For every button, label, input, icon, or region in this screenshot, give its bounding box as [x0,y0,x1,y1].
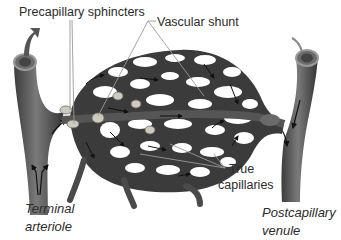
label-terminal-arteriole-line2: arteriole [25,218,72,235]
label-terminal-arteriole-line1: Terminal [25,200,74,217]
sphincter-2 [67,120,79,128]
sphincter-5 [131,100,141,108]
terminal-arteriole [14,28,66,215]
sphincter-3 [92,113,104,123]
label-true-capillaries-line1: True [229,162,254,176]
label-true-capillaries-line2: capillaries [218,178,274,192]
label-postcapillary-venule-line2: venule [262,222,300,239]
label-postcapillary-venule-line1: Postcapillary [262,204,336,221]
label-precapillary-sphincters: Precapillary sphincters [19,5,145,19]
sphincter-4 [113,92,123,100]
label-vascular-shunt: Vascular shunt [157,15,239,29]
sphincter-6 [145,126,155,134]
